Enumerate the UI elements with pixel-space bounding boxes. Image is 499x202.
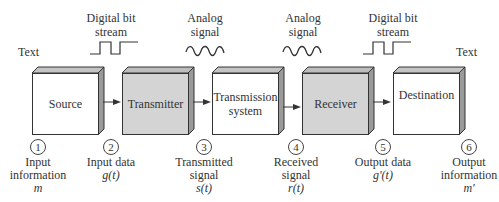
block-transmitter: Transmitter (122, 67, 194, 135)
block-label: Transmission system (212, 73, 279, 135)
signal-label-line2: signal (258, 25, 348, 39)
node-3-transmitted-signal: 3 Transmitted signal s(t) (159, 139, 249, 195)
block-destination: Destination (393, 67, 465, 135)
block-label-line2: system (229, 104, 262, 118)
node-5-output-data: 5 Output data g'(t) (338, 139, 428, 182)
block-receiver: Receiver (302, 67, 374, 135)
node-2-input-data: 2 Input data g(t) (66, 139, 156, 182)
signal-label-line2: stream (66, 25, 156, 39)
arrow-right-icon (103, 97, 123, 107)
block-label: Receiver (302, 73, 369, 135)
arrow-right-icon (283, 102, 303, 112)
node-number-badge: 2 (103, 139, 119, 155)
node-6-output-information: 6 Output information m' (424, 139, 499, 195)
node-symbol: m (0, 182, 83, 195)
digital-waveform-icon (363, 40, 413, 56)
signal-label-line1: Digital bit (348, 11, 438, 25)
analog-waveform-icon (282, 44, 322, 58)
signal-label-line2: stream (348, 25, 438, 39)
signal-label-line2: signal (160, 25, 250, 39)
text-label-right: Text (456, 45, 477, 59)
block-transmission-system: Transmission system (212, 67, 284, 135)
arrow-right-icon (373, 97, 393, 107)
signal-label-analog-1: Analog signal (160, 11, 250, 39)
node-symbol: m' (424, 182, 499, 195)
node-4-received-signal: 4 Received signal r(t) (251, 139, 341, 195)
signal-label-line1: Analog (160, 11, 250, 25)
node-number-badge: 1 (30, 139, 46, 155)
block-label-line1: Transmission (213, 90, 277, 104)
block-source: Source (32, 67, 104, 135)
block-label: Destination (393, 73, 460, 135)
signal-label-line1: Analog (258, 11, 348, 25)
node-number-badge: 6 (461, 139, 477, 155)
node-symbol: r(t) (251, 182, 341, 195)
signal-label-analog-2: Analog signal (258, 11, 348, 39)
signal-label-digital-1: Digital bit stream (66, 11, 156, 39)
block-label: Source (32, 73, 99, 135)
arrow-right-icon (193, 97, 213, 107)
node-label-line2: information (424, 169, 499, 182)
node-symbol: g(t) (66, 169, 156, 182)
node-symbol: g'(t) (338, 169, 428, 182)
text-label-left: Text (18, 45, 39, 59)
node-symbol: s(t) (159, 182, 249, 195)
signal-label-digital-2: Digital bit stream (348, 11, 438, 39)
block-label: Transmitter (122, 73, 189, 135)
node-number-badge: 5 (375, 139, 391, 155)
node-number-badge: 4 (288, 139, 304, 155)
signal-label-line1: Digital bit (66, 11, 156, 25)
node-number-badge: 3 (196, 139, 212, 155)
analog-waveform-icon (185, 44, 225, 58)
digital-waveform-icon (90, 40, 140, 56)
